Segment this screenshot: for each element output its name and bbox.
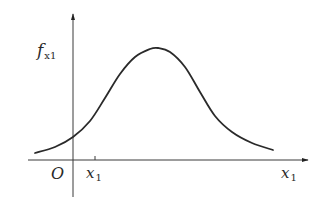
density-diagram xyxy=(0,0,329,205)
origin-label: O xyxy=(51,166,64,182)
x-axis-label: x1 xyxy=(281,166,297,181)
y-axis-label: fx1 xyxy=(37,42,56,59)
tick-label: x1 xyxy=(86,166,102,181)
density-curve xyxy=(35,48,273,153)
